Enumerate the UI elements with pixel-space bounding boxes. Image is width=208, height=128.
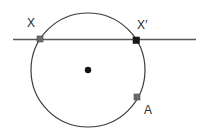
geometry-figure: X X′ A (0, 0, 208, 128)
point-label-x-prime: X′ (137, 19, 148, 31)
point-label-x: X (27, 17, 35, 29)
point-x-marker (37, 36, 43, 42)
circle-center-dot (85, 67, 91, 73)
point-a-marker (134, 94, 140, 100)
point-label-a: A (144, 104, 152, 116)
point-x-prime-marker (133, 37, 140, 44)
